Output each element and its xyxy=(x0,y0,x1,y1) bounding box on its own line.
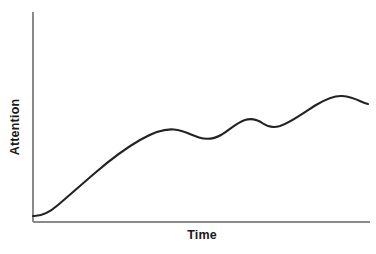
attention-curve xyxy=(33,96,368,216)
x-axis-label-text: Time xyxy=(187,228,217,242)
y-axis-label: Attention xyxy=(0,0,30,254)
y-axis-label-text: Attention xyxy=(8,99,22,156)
chart-canvas xyxy=(0,0,376,254)
attention-over-time-chart: Attention Time xyxy=(0,0,376,254)
x-axis-label: Time xyxy=(33,228,371,242)
